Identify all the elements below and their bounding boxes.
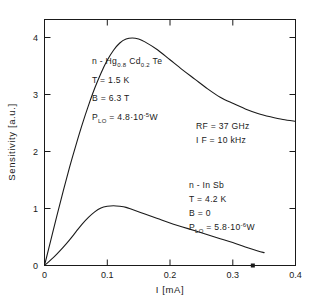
instrument-if: I F = 10 kHz	[196, 135, 246, 145]
upper-material-line: n - Hg0.8 Cd0.2 Te	[92, 56, 162, 68]
annotation-lower: n - In Sb T = 4.2 K B = 0 PLO = 5.8·10-6…	[189, 180, 255, 234]
instrument-rf: RF = 37 GHz	[196, 121, 250, 131]
upper-material-sub1: 0.8	[117, 62, 127, 68]
y-tick-label-4: 4	[33, 33, 38, 43]
x-axis-ticks	[45, 20, 296, 266]
curve-hgcdte	[45, 38, 296, 266]
upper-field: B = 6.3 T	[92, 93, 130, 103]
plot-frame	[45, 20, 296, 266]
y-axis-title: Sensitivity [a.u.]	[6, 103, 17, 180]
upper-material-mid: Cd	[129, 56, 141, 66]
upper-material-suffix: Te	[153, 56, 163, 66]
upper-power-eq: = 4.8	[107, 112, 131, 122]
upper-power-line: PLO = 4.8·10-5W	[92, 112, 158, 124]
y-tick-label-2: 2	[33, 147, 38, 157]
x-tick-label-0: 0	[42, 270, 47, 280]
y-axis-ticks	[45, 38, 296, 266]
lower-power-unit: W	[246, 222, 255, 232]
lower-temperature: T = 4.2 K	[189, 194, 227, 204]
upper-power-sub: LO	[98, 118, 107, 124]
x-tick-label-3: 0.3	[227, 270, 240, 280]
y-tick-label-3: 3	[33, 90, 38, 100]
upper-temperature: T = 1.5 K	[92, 75, 130, 85]
figure-panel: 0 0.1 0.2 0.3 0.4 0 1 2 3 4 I [mA] Sensi…	[0, 0, 320, 297]
curve-insb	[45, 206, 265, 266]
axis-dot-marker	[251, 264, 255, 268]
lower-power-eq: = 5.8	[204, 222, 228, 232]
upper-material-prefix: n - Hg	[92, 56, 117, 66]
x-tick-label-2: 0.2	[164, 270, 177, 280]
x-tick-label-4: 0.4	[289, 270, 302, 280]
annotation-instrument: RF = 37 GHz I F = 10 kHz	[196, 121, 250, 145]
x-axis-title: I [mA]	[156, 284, 184, 295]
annotation-upper: n - Hg0.8 Cd0.2 Te T = 1.5 K B = 6.3 T P…	[92, 56, 162, 124]
y-tick-label-0: 0	[33, 261, 38, 271]
sensitivity-vs-current-chart: 0 0.1 0.2 0.3 0.4 0 1 2 3 4 I [mA] Sensi…	[0, 0, 320, 297]
upper-power-mult: ·10	[130, 112, 143, 122]
x-tick-label-1: 0.1	[101, 270, 114, 280]
y-tick-label-1: 1	[33, 204, 38, 214]
lower-power-line: PLO = 5.8·10-6W	[189, 222, 255, 234]
lower-field: B = 0	[189, 208, 211, 218]
upper-power-unit: W	[149, 112, 158, 122]
lower-material: n - In Sb	[189, 180, 224, 190]
lower-power-mult: ·10	[227, 222, 240, 232]
upper-material-sub2: 0.2	[141, 62, 151, 68]
lower-power-sub: LO	[195, 228, 204, 234]
